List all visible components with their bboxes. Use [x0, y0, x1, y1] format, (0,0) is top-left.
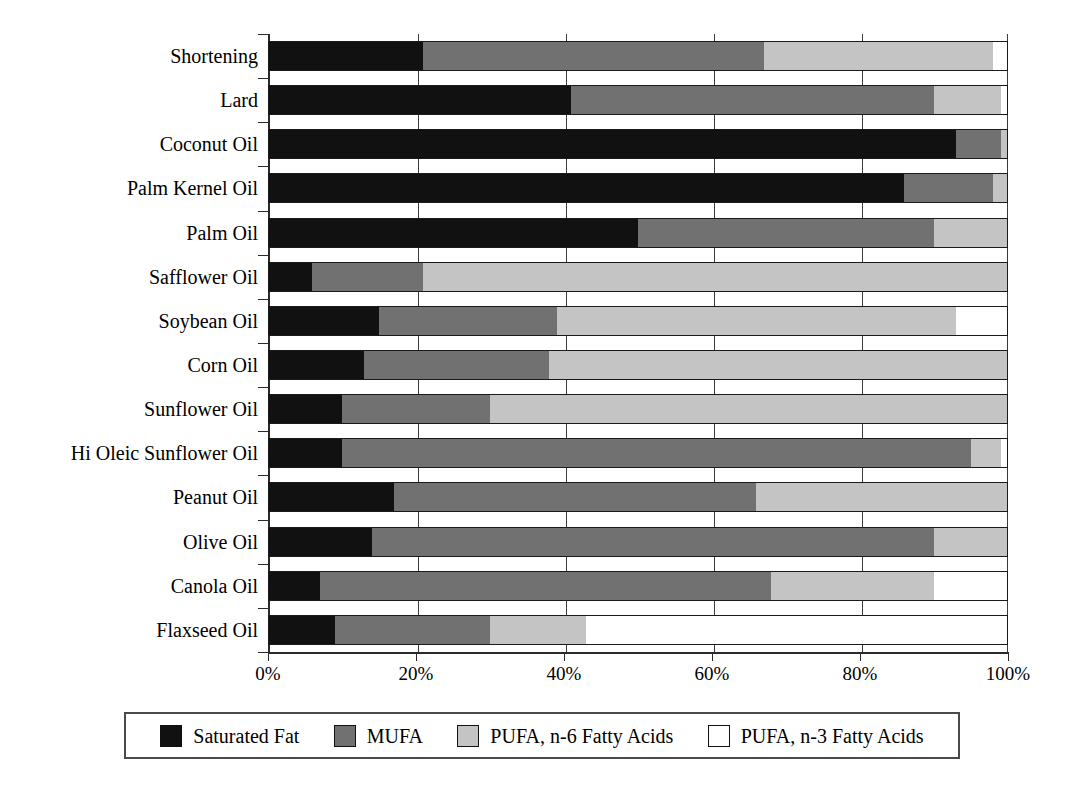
x-axis-tick-label: 80% [815, 662, 905, 686]
bar-row: Palm Oil [0, 211, 1083, 241]
legend-item[interactable]: PUFA, n-6 Fatty Acids [457, 725, 673, 747]
stacked-bar[interactable] [268, 41, 1008, 71]
category-label: Sunflower Oil [0, 394, 268, 424]
bar-segment-n6[interactable] [934, 527, 1008, 557]
category-label: Shortening [0, 41, 268, 71]
bar-segment-mufa[interactable] [342, 438, 971, 468]
stacked-bar[interactable] [268, 571, 1008, 601]
stacked-bar[interactable] [268, 438, 1008, 468]
bar-segment-sat[interactable] [268, 218, 638, 248]
x-axis-tick [860, 652, 861, 661]
bar-segment-n6[interactable] [993, 173, 1008, 203]
bar-segment-n6[interactable] [756, 482, 1008, 512]
bar-segment-n3[interactable] [586, 615, 1008, 645]
x-axis-tick-label: 100% [963, 662, 1053, 686]
stacked-bar[interactable] [268, 482, 1008, 512]
bar-row: Soybean Oil [0, 299, 1083, 329]
stacked-bar[interactable] [268, 85, 1008, 115]
bar-segment-n6[interactable] [971, 438, 1001, 468]
bar-segment-n3[interactable] [1001, 85, 1008, 115]
stacked-bar[interactable] [268, 218, 1008, 248]
bar-segment-mufa[interactable] [423, 41, 763, 71]
bar-row: Safflower Oil [0, 255, 1083, 285]
bar-segment-sat[interactable] [268, 482, 394, 512]
bar-row: Palm Kernel Oil [0, 166, 1083, 196]
bar-row: Coconut Oil [0, 122, 1083, 152]
category-label: Hi Oleic Sunflower Oil [0, 438, 268, 468]
bar-segment-mufa[interactable] [364, 350, 549, 380]
legend-label: Saturated Fat [193, 725, 299, 747]
bar-segment-mufa[interactable] [335, 615, 490, 645]
x-axis-tick [712, 652, 713, 661]
bar-segment-mufa[interactable] [312, 262, 423, 292]
bar-segment-sat[interactable] [268, 129, 956, 159]
y-axis-tick [258, 652, 268, 653]
bar-row: Olive Oil [0, 520, 1083, 550]
category-label: Soybean Oil [0, 306, 268, 336]
stacked-bar[interactable] [268, 350, 1008, 380]
legend-label: PUFA, n-6 Fatty Acids [490, 725, 673, 747]
bar-segment-mufa[interactable] [320, 571, 771, 601]
stacked-bar[interactable] [268, 527, 1008, 557]
bar-segment-n6[interactable] [1001, 129, 1008, 159]
bar-segment-sat[interactable] [268, 394, 342, 424]
bar-segment-sat[interactable] [268, 41, 423, 71]
bar-segment-sat[interactable] [268, 438, 342, 468]
x-axis-line [268, 652, 1009, 654]
bar-segment-n6[interactable] [934, 218, 1008, 248]
stacked-bar[interactable] [268, 306, 1008, 336]
stacked-bar[interactable] [268, 394, 1008, 424]
legend-label: MUFA [367, 725, 423, 747]
bar-segment-n6[interactable] [934, 85, 1001, 115]
bar-segment-n6[interactable] [490, 394, 1008, 424]
bar-segment-mufa[interactable] [394, 482, 757, 512]
stacked-bar[interactable] [268, 129, 1008, 159]
stacked-bar[interactable] [268, 173, 1008, 203]
bar-segment-sat[interactable] [268, 85, 571, 115]
legend-swatch-icon [457, 725, 479, 747]
bar-segment-sat[interactable] [268, 350, 364, 380]
x-axis-tick [416, 652, 417, 661]
bar-segment-n6[interactable] [490, 615, 586, 645]
stacked-bar[interactable] [268, 615, 1008, 645]
bar-row: Flaxseed Oil [0, 608, 1083, 638]
bar-segment-sat[interactable] [268, 571, 320, 601]
bar-segment-n6[interactable] [423, 262, 1008, 292]
bar-segment-n3[interactable] [993, 41, 1008, 71]
bar-segment-mufa[interactable] [904, 173, 993, 203]
legend-item[interactable]: MUFA [334, 725, 423, 747]
bar-segment-mufa[interactable] [342, 394, 490, 424]
x-axis-tick-label: 60% [667, 662, 757, 686]
bar-segment-n3[interactable] [934, 571, 1008, 601]
bar-row: Sunflower Oil [0, 387, 1083, 417]
bar-segment-n6[interactable] [557, 306, 957, 336]
bar-segment-n6[interactable] [771, 571, 934, 601]
stacked-bar[interactable] [268, 262, 1008, 292]
bar-segment-mufa[interactable] [372, 527, 934, 557]
bar-segment-n6[interactable] [764, 41, 993, 71]
category-label: Palm Oil [0, 218, 268, 248]
bar-segment-n3[interactable] [1001, 438, 1008, 468]
legend-item[interactable]: Saturated Fat [160, 725, 299, 747]
bar-segment-sat[interactable] [268, 262, 312, 292]
bar-segment-mufa[interactable] [571, 85, 934, 115]
x-axis-tick-label: 20% [371, 662, 461, 686]
bar-segment-n3[interactable] [956, 306, 1008, 336]
bar-segment-mufa[interactable] [956, 129, 1000, 159]
fatty-acid-composition-chart: ShorteningLardCoconut OilPalm Kernel Oil… [0, 0, 1083, 792]
x-axis-tick-label: 0% [223, 662, 313, 686]
category-label: Corn Oil [0, 350, 268, 380]
bar-segment-sat[interactable] [268, 527, 372, 557]
bar-segment-mufa[interactable] [638, 218, 934, 248]
bar-segment-sat[interactable] [268, 615, 335, 645]
bar-segment-mufa[interactable] [379, 306, 557, 336]
bar-segment-sat[interactable] [268, 173, 904, 203]
bar-row: Canola Oil [0, 564, 1083, 594]
category-label: Peanut Oil [0, 482, 268, 512]
bar-segment-n6[interactable] [549, 350, 1008, 380]
bar-segment-sat[interactable] [268, 306, 379, 336]
x-axis-tick [564, 652, 565, 661]
legend-item[interactable]: PUFA, n-3 Fatty Acids [708, 725, 924, 747]
chart-legend: Saturated FatMUFAPUFA, n-6 Fatty AcidsPU… [124, 712, 960, 759]
category-label: Palm Kernel Oil [0, 173, 268, 203]
